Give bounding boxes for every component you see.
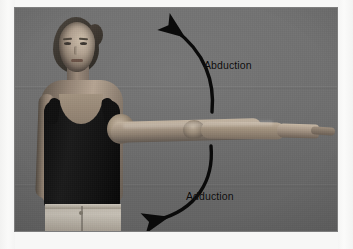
subject-jeans-button [79,211,83,215]
abduction-label: Abduction [204,59,252,71]
subject-jeans-seam [81,206,83,232]
photograph-frame: Abduction Adduction [14,7,338,232]
subject-jeans-waistband [45,204,121,209]
subject-eye-right [80,42,87,45]
page-canvas: Abduction Adduction [0,0,353,249]
subject-figure [15,8,338,232]
subject-mouth [71,59,83,62]
subject-nose [74,46,78,55]
subject-fingers [311,126,335,135]
page-margin-right [338,0,353,249]
photograph: Abduction Adduction [15,8,337,231]
subject-eye-left [64,42,71,45]
adduction-label: Adduction [186,190,234,202]
page-margin-left [0,0,15,249]
